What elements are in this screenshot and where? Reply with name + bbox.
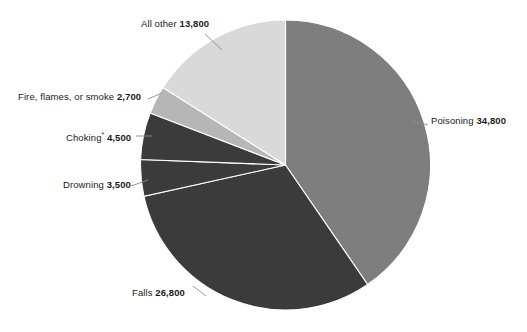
slice-label-drowning-name: Drowning (63, 179, 104, 190)
slice-label-falls: Falls 26,800 (132, 287, 185, 299)
slice-label-falls-name: Falls (132, 287, 153, 298)
slice-label-fire-flames-or-smoke: Fire, flames, or smoke 2,700 (18, 91, 141, 103)
slice-label-all-other: All other 13,800 (141, 18, 209, 30)
slice-label-drowning-value: 3,500 (107, 179, 131, 190)
slice-label-fire-value: 2,700 (117, 91, 141, 102)
slice-label-choking: Choking* 4,500 (66, 129, 131, 144)
slice-label-poisoning-name: Poisoning (431, 115, 474, 126)
slice-label-all-other-name: All other (141, 18, 177, 29)
slice-label-choking-name: Choking (66, 132, 102, 143)
leader-line-falls (193, 286, 206, 296)
slice-label-poisoning: Poisoning 34,800 (431, 115, 506, 127)
pie-chart-svg (0, 0, 527, 332)
slice-label-poisoning-value: 34,800 (476, 115, 506, 126)
slice-label-choking-value: 4,500 (107, 132, 131, 143)
slice-label-all-other-value: 13,800 (180, 18, 210, 29)
pie-chart: All other 13,800 Poisoning 34,800 Fire, … (0, 0, 527, 332)
slice-label-drowning: Drowning 3,500 (63, 179, 131, 191)
slice-label-falls-value: 26,800 (155, 287, 185, 298)
slice-label-fire-name: Fire, flames, or smoke (18, 91, 114, 102)
